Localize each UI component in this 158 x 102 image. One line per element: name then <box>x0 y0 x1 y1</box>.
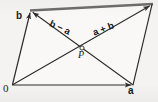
vector-a-label: a <box>128 86 134 96</box>
origin-label: 0 <box>3 83 9 94</box>
point-p-label: P <box>78 50 84 60</box>
vector-b-label: b <box>16 11 22 21</box>
vector-parallelogram-figure: 0 a b P b − a a + b <box>0 0 158 102</box>
